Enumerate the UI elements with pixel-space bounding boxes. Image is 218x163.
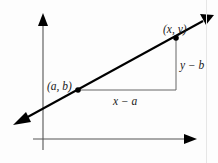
- line-arrow-right-icon: [200, 14, 214, 25]
- slope-diagram: (a, b) (x, y) y − b x − a: [0, 0, 218, 163]
- point-label-x-y: (x, y): [163, 24, 187, 36]
- horizontal-leg-label: x − a: [113, 96, 137, 108]
- point-label-a-b: (a, b): [47, 81, 72, 93]
- scan-edge: [206, 0, 207, 163]
- x-axis: [33, 134, 197, 144]
- y-axis-arrow-icon: [38, 13, 48, 26]
- vertical-leg-label: y − b: [180, 60, 204, 72]
- line-arrow-left-icon: [13, 112, 31, 125]
- point-a-b: [75, 87, 81, 93]
- point-x-y: [173, 35, 179, 41]
- x-axis-arrow-icon: [184, 134, 197, 144]
